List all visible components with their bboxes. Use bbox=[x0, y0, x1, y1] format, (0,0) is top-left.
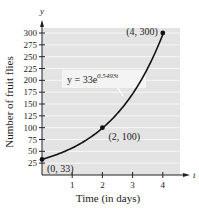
y-tick-label: 200 bbox=[24, 75, 38, 85]
data-point bbox=[40, 157, 45, 162]
data-point-label: (4, 300) bbox=[126, 26, 158, 38]
x-axis-arrow-icon bbox=[183, 173, 190, 177]
y-tick-label: 275 bbox=[24, 40, 38, 50]
y-axis-var: y bbox=[39, 6, 44, 16]
exponential-growth-chart: y = 33e0.5493t y t 255075100125150175200… bbox=[0, 0, 199, 211]
x-axis-var: t bbox=[193, 170, 196, 180]
y-tick-label: 50 bbox=[28, 146, 38, 156]
y-tick-label: 75 bbox=[28, 135, 38, 145]
y-tick-label: 25 bbox=[28, 158, 38, 168]
x-axis-title: Time (in days) bbox=[76, 192, 141, 205]
data-point-label: (2, 100) bbox=[108, 131, 140, 143]
y-tick-label: 300 bbox=[24, 28, 38, 38]
y-tick-label: 225 bbox=[24, 64, 38, 74]
y-axis-arrow-icon bbox=[40, 20, 44, 27]
data-point bbox=[160, 31, 165, 36]
y-axis-title: Number of fruit flies bbox=[3, 56, 15, 147]
x-tick-label: 2 bbox=[100, 180, 105, 190]
y-tick-label: 100 bbox=[24, 123, 38, 133]
x-tick-label: 4 bbox=[161, 180, 166, 190]
y-tick-label: 125 bbox=[24, 111, 38, 121]
x-tick-label: 1 bbox=[70, 180, 75, 190]
y-tick-label: 150 bbox=[24, 99, 38, 109]
data-point bbox=[100, 125, 105, 130]
data-point-label: (0, 33) bbox=[47, 163, 74, 175]
y-tick-label: 175 bbox=[24, 87, 38, 97]
y-tick-label: 250 bbox=[24, 52, 38, 62]
x-tick-label: 3 bbox=[130, 180, 135, 190]
